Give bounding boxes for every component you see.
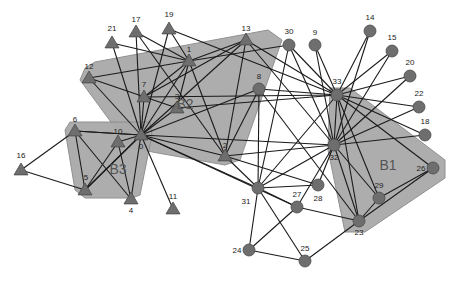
circle-node-icon [404, 70, 416, 82]
node-label: 28 [314, 194, 323, 203]
node-11[interactable]: 11 [166, 192, 180, 214]
node-label: 5 [84, 173, 89, 182]
node-label: 25 [301, 244, 310, 253]
triangle-node-icon [162, 22, 176, 34]
edge [305, 221, 359, 261]
node-label: 4 [129, 206, 134, 215]
node-label: 16 [17, 151, 26, 160]
node-label: 7 [142, 80, 147, 89]
node-16[interactable]: 16 [14, 151, 28, 175]
node-27[interactable]: 27 [291, 190, 303, 213]
node-label: 19 [165, 10, 174, 19]
circle-node-icon [373, 192, 385, 204]
circle-node-icon [419, 129, 431, 141]
triangle-node-icon [166, 202, 180, 214]
node-21[interactable]: 21 [105, 24, 119, 48]
node-label: 18 [421, 117, 430, 126]
node-label: 27 [293, 190, 302, 199]
node-28[interactable]: 28 [312, 179, 324, 203]
edge [21, 131, 75, 170]
region-label: B3 [109, 161, 126, 177]
node-label: 23 [355, 228, 364, 237]
node-label: 22 [415, 89, 424, 98]
node-label: 24 [233, 246, 242, 255]
region-label: B1 [379, 157, 396, 173]
circle-node-icon [353, 215, 365, 227]
triangle-node-icon [129, 25, 143, 37]
node-15[interactable]: 15 [386, 33, 398, 57]
node-24[interactable]: 24 [233, 244, 255, 256]
node-20[interactable]: 20 [404, 58, 416, 82]
node-label: 9 [313, 28, 318, 37]
node-17[interactable]: 17 [129, 15, 143, 37]
node-label: 15 [388, 33, 397, 42]
node-label: 32 [330, 153, 339, 162]
network-graph: 0123456789101112131415161718192021222324… [0, 0, 455, 281]
node-label: 10 [114, 127, 123, 136]
circle-node-icon [253, 83, 265, 95]
node-label: 11 [169, 192, 178, 201]
node-9[interactable]: 9 [309, 28, 321, 51]
node-31[interactable]: 31 [242, 182, 264, 206]
node-19[interactable]: 19 [162, 10, 176, 34]
node-18[interactable]: 18 [419, 117, 431, 141]
node-label: 1 [187, 45, 192, 54]
node-label: 2 [223, 141, 228, 150]
node-22[interactable]: 22 [413, 89, 425, 113]
circle-node-icon [331, 89, 343, 101]
circle-node-icon [243, 244, 255, 256]
circle-node-icon [427, 162, 439, 174]
node-label: 6 [73, 115, 78, 124]
circle-node-icon [386, 45, 398, 57]
node-label: 13 [242, 24, 251, 33]
node-label: 20 [406, 58, 415, 67]
edge [249, 207, 297, 250]
region-label: B2 [176, 96, 193, 112]
node-25[interactable]: 25 [299, 244, 311, 267]
triangle-node-icon [14, 163, 28, 175]
circle-node-icon [413, 101, 425, 113]
node-label: 0 [139, 142, 144, 151]
node-label: 12 [85, 62, 94, 71]
edge [337, 31, 370, 95]
node-label: 8 [257, 72, 262, 81]
circle-node-icon [309, 39, 321, 51]
node-label: 17 [132, 15, 141, 24]
circle-node-icon [252, 182, 264, 194]
circle-node-icon [299, 255, 311, 267]
circle-node-icon [283, 39, 295, 51]
node-label: 29 [375, 181, 384, 190]
circle-node-icon [364, 25, 376, 37]
circle-node-icon [312, 179, 324, 191]
node-label: 26 [417, 164, 426, 173]
node-label: 31 [242, 197, 251, 206]
circle-node-icon [328, 139, 340, 151]
node-30[interactable]: 30 [283, 27, 295, 51]
node-label: 14 [366, 13, 375, 22]
node-label: 30 [285, 27, 294, 36]
node-label: 21 [108, 24, 117, 33]
node-14[interactable]: 14 [364, 13, 376, 37]
edge [249, 250, 305, 261]
circle-node-icon [291, 201, 303, 213]
triangle-node-icon [105, 36, 119, 48]
node-label: 33 [333, 77, 342, 86]
